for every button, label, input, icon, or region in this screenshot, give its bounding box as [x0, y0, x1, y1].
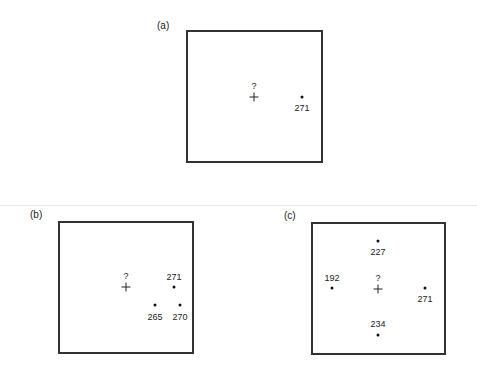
panel-b-point-value: 271 [166, 273, 181, 282]
panel-b-point-value: 265 [147, 313, 162, 322]
section-separator [0, 205, 477, 206]
panel-c-point-value: 271 [417, 295, 432, 304]
panel-a-point-dot [301, 96, 304, 99]
panel-a-query-label: ? [251, 82, 256, 91]
panel-a-label: (a) [157, 21, 169, 31]
panel-c-point-dot [424, 287, 427, 290]
panel-c-point-value: 234 [370, 320, 385, 329]
panel-c-point-dot [331, 287, 334, 290]
panel-c-label: (c) [284, 211, 296, 221]
panel-c-query-label: ? [375, 274, 380, 283]
panel-b-point-dot [173, 286, 176, 289]
panel-b-query-label: ? [123, 272, 128, 281]
panel-b-point-dot [154, 304, 157, 307]
panel-c-point-dot [377, 240, 380, 243]
panel-c-point-value: 192 [324, 274, 339, 283]
panel-a-point-value: 271 [294, 104, 309, 113]
panel-c-point-value: 227 [370, 248, 385, 257]
panel-b-target-cross-icon [122, 283, 131, 292]
panel-b-label: (b) [30, 210, 42, 220]
panel-b-point-dot [179, 304, 182, 307]
panel-b-point-value: 270 [172, 313, 187, 322]
panel-c-point-dot [377, 334, 380, 337]
panel-c-target-cross-icon [374, 285, 383, 294]
panel-a-target-cross-icon [250, 93, 259, 102]
